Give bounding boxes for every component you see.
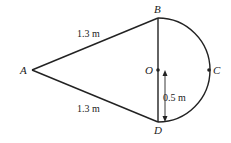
point-o-dot bbox=[156, 68, 160, 72]
segment-ab bbox=[32, 18, 158, 70]
label-c: C bbox=[213, 64, 221, 76]
measure-radius: 0.5 m bbox=[163, 92, 186, 103]
label-b: B bbox=[154, 3, 161, 15]
arrow-head-up-icon bbox=[163, 70, 168, 76]
label-d: D bbox=[153, 124, 162, 136]
point-c-dot bbox=[207, 68, 211, 72]
label-a: A bbox=[19, 64, 27, 76]
geometry-diagram: A B C D O 1.3 m 1.3 m 0.5 m bbox=[0, 0, 231, 143]
label-o: O bbox=[145, 64, 153, 76]
measure-ad: 1.3 m bbox=[77, 103, 100, 114]
measure-ab: 1.3 m bbox=[77, 28, 100, 39]
semicircle-bcd bbox=[158, 18, 210, 122]
segment-ad bbox=[32, 70, 158, 122]
